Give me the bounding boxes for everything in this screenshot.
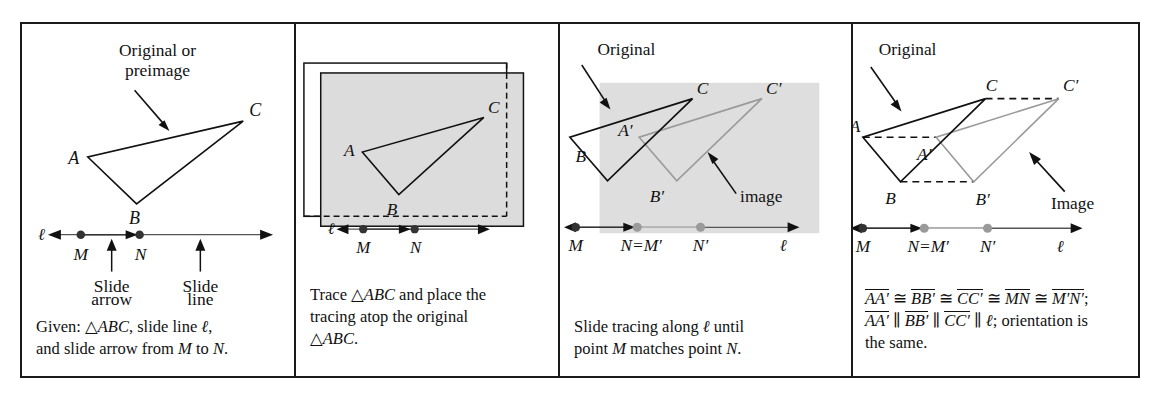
- caption-abc: ABC: [98, 317, 129, 336]
- caption-n: N: [213, 339, 224, 358]
- point-label-m: M: [855, 237, 872, 256]
- caption-line-1: AA′ ≅ BB′ ≅ CC′ ≅ MN ≅ M′N′;: [865, 288, 1132, 310]
- caption-slide-line-text: , slide line: [129, 317, 201, 336]
- point-n-dot: [135, 230, 144, 239]
- caption-line-1: Trace △ABC and place the: [310, 284, 546, 306]
- vertex-label-c: C: [249, 100, 262, 120]
- segment-bb-prime: BB′: [911, 289, 935, 307]
- callout-original: Original: [879, 40, 937, 59]
- callout-image: image: [740, 187, 783, 206]
- point-m-dot: [77, 230, 86, 239]
- caption-period: .: [354, 329, 358, 348]
- vertex-label-c: C: [697, 79, 709, 98]
- panel-result-artwork: Original A B C A′: [853, 24, 1138, 292]
- segment-cc-prime-2: CC′: [944, 311, 970, 329]
- point-label-n-eq-m-prime: N=M′: [620, 236, 663, 255]
- vertex-label-c-prime: C′: [1063, 76, 1079, 95]
- vertex-label-a: A: [343, 141, 355, 160]
- vertex-label-b-prime: B′: [650, 187, 665, 206]
- caption-panel-slide: Slide tracing along ℓ until point M matc…: [560, 316, 851, 376]
- point-n-m-prime-dot: [920, 224, 929, 233]
- point-label-n: N: [134, 244, 148, 264]
- vertex-label-a: A: [853, 117, 861, 136]
- semicolon-1: ;: [1084, 289, 1089, 308]
- callout-image: Image: [1051, 194, 1095, 213]
- point-m-dot: [359, 225, 367, 233]
- point-n-prime-dot: [696, 223, 705, 232]
- callout-arrow-image-icon: [1029, 152, 1065, 192]
- caption-abc: ABC: [364, 285, 395, 304]
- point-label-m: M: [73, 244, 90, 264]
- segment-aa-prime-2: AA′: [865, 311, 889, 329]
- caption-n: N: [726, 339, 737, 358]
- label-slide-arrow-line2: arrow: [91, 289, 132, 309]
- congruent-symbol-4: ≅: [1034, 289, 1048, 308]
- triangle-symbol-2: △: [310, 329, 323, 348]
- point-label-n-prime: N′: [979, 237, 996, 256]
- triangle-symbol: △: [351, 285, 364, 304]
- caption-line-2: and slide arrow from M to N.: [36, 338, 282, 360]
- caption-line-3: the same.: [865, 332, 1132, 354]
- vertex-label-b: B: [129, 208, 140, 228]
- caption-orientation-is: ; orientation is: [993, 311, 1088, 330]
- panel-result: Original A B C A′: [851, 24, 1138, 376]
- segment-m-prime-n-prime: M′N′: [1052, 289, 1084, 307]
- congruent-symbol-2: ≅: [939, 289, 953, 308]
- caption-panel-trace: Trace △ABC and place the tracing atop th…: [296, 284, 558, 366]
- caption-and-place: and place the: [395, 285, 486, 304]
- caption-to: to: [192, 339, 213, 358]
- caption-line-3: △ABC.: [310, 328, 546, 350]
- point-n-prime-dot: [983, 224, 992, 233]
- vertex-label-c: C: [986, 76, 998, 95]
- callout-original: Original: [598, 40, 656, 59]
- triangle-original-abc: [863, 99, 986, 182]
- caption-slide-tracing: Slide tracing along: [574, 317, 703, 336]
- caption-line-2: point M matches point N.: [574, 338, 839, 360]
- caption-point: point: [574, 339, 612, 358]
- caption-line-2: tracing atop the original: [310, 306, 546, 328]
- parallel-symbol-2: ∥: [933, 311, 941, 330]
- congruent-symbol-1: ≅: [893, 289, 907, 308]
- caption-abc-2: ABC: [323, 329, 354, 348]
- caption-comma: ,: [208, 317, 212, 336]
- panel-trace: A B C ℓ M: [294, 24, 558, 376]
- panel-given-artwork: Original or preimage A B C: [22, 24, 294, 292]
- label-slide-line-line2: line: [187, 289, 213, 309]
- caption-until: until: [710, 317, 744, 336]
- vertex-label-b-prime: B′: [975, 190, 990, 209]
- triangle-image-a-b-c-prime: [936, 99, 1059, 182]
- vertex-label-b: B: [387, 200, 398, 219]
- segment-aa-prime: AA′: [865, 289, 889, 307]
- slide-line-label-ell: ℓ: [1057, 237, 1064, 256]
- caption-m: M: [612, 339, 626, 358]
- slide-line-label-ell: ℓ: [328, 219, 335, 238]
- segment-bb-prime-2: BB′: [905, 311, 929, 329]
- triangle-abc: [88, 121, 243, 204]
- panel-given: Original or preimage A B C: [22, 24, 294, 376]
- point-label-n-prime: N′: [692, 236, 709, 255]
- caption-line-1: Given: △ABC, slide line ℓ,: [36, 316, 282, 338]
- caption-panel-given: Given: △ABC, slide line ℓ, and slide arr…: [22, 316, 294, 376]
- callout-original-line2: preimage: [125, 60, 190, 80]
- vertex-label-a-prime: A′: [617, 121, 633, 140]
- segment-mn: MN: [1005, 289, 1030, 307]
- pointer-label-second-lines: arrow line: [22, 286, 294, 312]
- slide-line-pointer-icon: [195, 239, 205, 272]
- caption-panel-result: AA′ ≅ BB′ ≅ CC′ ≅ MN ≅ M′N′; AA′ ∥ BB′ ∥…: [853, 288, 1138, 370]
- vertex-label-a-prime: A′: [916, 145, 932, 164]
- caption-slide-arrow-text: and slide arrow from: [36, 339, 178, 358]
- point-label-n: N: [409, 238, 422, 257]
- point-n-m-prime-dot: [633, 223, 642, 232]
- panel-trace-artwork: A B C ℓ M: [296, 24, 558, 292]
- panel-slide: Original B C A′ B′ C′: [558, 24, 851, 376]
- caption-given-word: Given:: [36, 317, 85, 336]
- figure-frame: Original or preimage A B C: [20, 22, 1140, 378]
- slide-arrow-m-to-n: [863, 224, 922, 233]
- point-m-dot: [859, 224, 868, 233]
- tracing-sheet-region: [600, 83, 820, 233]
- segment-cc-prime: CC′: [957, 289, 983, 307]
- vertex-label-c-prime: C′: [766, 79, 782, 98]
- parallel-symbol-3: ∥: [974, 311, 982, 330]
- caption-ell: ℓ: [986, 311, 993, 330]
- caption-ell: ℓ: [703, 317, 710, 336]
